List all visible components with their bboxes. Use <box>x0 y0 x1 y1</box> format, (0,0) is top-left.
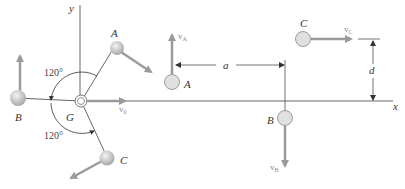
right-particle-c <box>296 32 311 47</box>
right-velocity-c-label: vC <box>344 24 353 35</box>
left-c-velocity-arrow <box>71 161 102 178</box>
right-particle-c-label: C <box>300 17 308 29</box>
right-particle-b-label: B <box>267 114 274 126</box>
velocity-v0-label: v0 <box>119 104 127 115</box>
x-axis-label: x <box>392 100 398 112</box>
right-particle-a <box>165 75 180 90</box>
angle-top-label: 120° <box>44 67 63 78</box>
right-particle-b <box>278 111 293 126</box>
left-particle-c <box>100 151 115 166</box>
diagram-canvas: x y 120° 120° G v0 A B C A vA a B vB C v… <box>0 0 405 189</box>
center-of-mass-g <box>75 95 87 107</box>
right-velocity-b-label: vB <box>270 162 279 173</box>
right-velocity-a-label: vA <box>178 31 188 42</box>
dimension-d-label: d <box>369 64 375 76</box>
y-axis-label: y <box>68 2 74 14</box>
angle-bottom-label: 120° <box>44 130 63 141</box>
left-particle-b <box>10 90 26 106</box>
rod-c <box>82 103 106 155</box>
center-label-g: G <box>66 111 74 123</box>
left-particle-c-label: C <box>120 154 128 166</box>
right-particle-a-label: A <box>183 78 191 90</box>
left-particle-a <box>110 41 124 55</box>
left-particle-a-label: A <box>110 27 118 39</box>
rod-a <box>82 49 113 100</box>
dimension-a-label: a <box>223 59 229 71</box>
rod-b <box>17 98 80 101</box>
left-a-velocity-arrow <box>121 52 151 72</box>
left-particle-b-label: B <box>15 111 22 123</box>
